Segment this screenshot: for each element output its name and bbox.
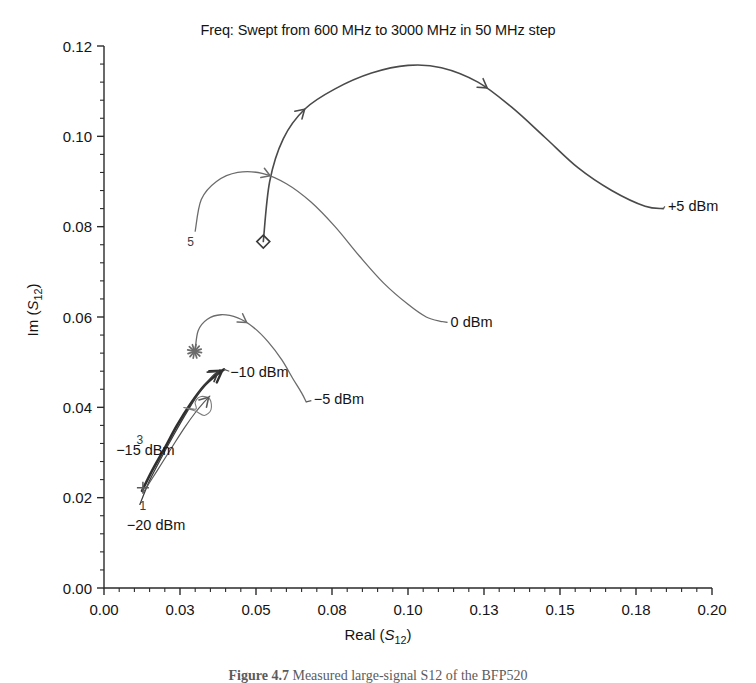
x-tick-label: 0.15 — [545, 601, 574, 618]
y-tick-label: 0.10 — [63, 128, 92, 145]
figure-caption: Figure 4.7 Measured large-signal S12 of … — [0, 668, 756, 683]
annotation-10dbm: −10 dBm — [230, 364, 288, 380]
x-tick-label: 0.13 — [469, 601, 498, 618]
y-tick-label: 0.08 — [63, 218, 92, 235]
y-tick-label: 0.02 — [63, 489, 92, 506]
curve--5-dbm — [195, 315, 306, 402]
y-tick-label: 0.04 — [63, 399, 92, 416]
y-tick-label: 0.06 — [63, 309, 92, 326]
marker-5: 5 — [187, 235, 194, 249]
tick-marks — [97, 46, 712, 595]
chart-title: Freq: Swept from 600 MHz to 3000 MHz in … — [0, 22, 756, 38]
curve-annotations: +5 dBm0 dBm−5 dBm−10 dBm−15 dBm−20 dBm — [116, 198, 718, 532]
leader-plus5 — [663, 206, 665, 208]
caption-text: Measured large-signal S12 of the BFP520 — [292, 668, 527, 683]
marker-plus-icon — [137, 482, 149, 494]
data-curves — [140, 65, 663, 504]
direction-arrows — [199, 79, 487, 407]
annotation-5dbm: −5 dBm — [314, 391, 364, 407]
x-tick-label: 0.03 — [165, 601, 194, 618]
y-tick-label: 0.12 — [63, 38, 92, 55]
axes — [104, 46, 712, 588]
leader-minus10 — [224, 369, 229, 371]
marker-1: 1 — [140, 499, 147, 513]
annotation-5dbm: +5 dBm — [668, 198, 718, 214]
x-tick-label: 0.10 — [393, 601, 422, 618]
curve--5-dbm — [263, 65, 663, 242]
y-axis-label: Im (S12) — [24, 250, 44, 370]
figure-container: Freq: Swept from 600 MHz to 3000 MHz in … — [0, 0, 756, 683]
y-tick-label: 0.00 — [63, 580, 92, 597]
x-tick-label: 0.20 — [697, 601, 726, 618]
x-axis-label: Real (S12) — [0, 626, 756, 646]
leader-minus5 — [306, 401, 311, 402]
scatter-plot-canvas: 0.000.020.040.060.080.100.120.000.030.05… — [0, 0, 756, 660]
x-tick-label: 0.08 — [317, 601, 346, 618]
leader-lines — [224, 206, 665, 402]
x-tick-label: 0.00 — [89, 601, 118, 618]
curve-0-dbm — [195, 172, 441, 322]
annotation-15dbm: −15 dBm — [116, 442, 174, 458]
annotation-20dbm: −20 dBm — [127, 517, 185, 533]
leader-zero — [441, 322, 447, 323]
curve--15-dbm — [140, 370, 220, 505]
x-tick-label: 0.05 — [241, 601, 270, 618]
x-tick-label: 0.18 — [621, 601, 650, 618]
caption-number: Figure 4.7 — [229, 668, 289, 683]
annotation-0dbm: 0 dBm — [451, 314, 493, 330]
axis-spine — [104, 46, 712, 588]
